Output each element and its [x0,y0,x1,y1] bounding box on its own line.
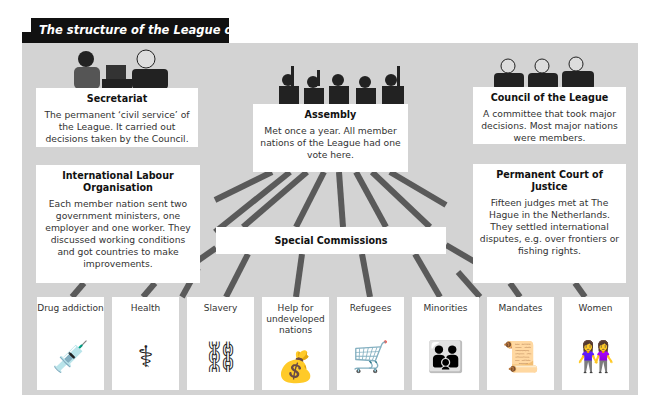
commission-help-undeveloped: Help for undeveloped nations 💰 [262,297,329,390]
commission-label: Drug addiction [37,303,104,314]
refugee-cart-icon: 🛒 [337,339,404,375]
stethoscope-icon: ⚕ [112,339,179,375]
scroll-icon: 📜 [487,339,554,375]
secretariat-box: Secretariat The permanent ‘civil service… [36,88,198,147]
commission-refugees: Refugees 🛒 [337,297,404,390]
secretariat-text: The permanent ‘civil service’ of the Lea… [42,109,192,145]
commission-label: Health [112,303,179,314]
council-men-icon [490,56,600,90]
council-box: Council of the League A committee that t… [473,87,626,144]
assembly-text: Met once a year. All member nations of t… [259,125,402,161]
commission-label: Refugees [337,303,404,314]
secretariat-heading: Secretariat [42,93,192,105]
women-icon: 👭 [562,339,629,375]
commission-drug-addiction: Drug addiction 💉 [37,297,104,390]
court-text: Fifteen judges met at The Hague in the N… [479,197,620,257]
syringe-pills-icon: 💉 [37,339,104,375]
council-heading: Council of the League [479,92,620,104]
commission-label: Mandates [487,303,554,314]
commission-minorities: Minorities 👪 [412,297,479,390]
commission-health: Health ⚕ [112,297,179,390]
assembly-box: Assembly Met once a year. All member nat… [253,104,408,172]
court-box: Permanent Court of Justice Fifteen judge… [473,164,626,283]
delegates-voting-icon [273,64,413,104]
ilo-text: Each member nation sent two government m… [42,198,194,270]
commission-label: Women [562,303,629,314]
commission-label: Minorities [412,303,479,314]
secretary-typing-icon [58,47,178,89]
commission-women: Women 👭 [562,297,629,390]
council-text: A committee that took major decisions. M… [479,108,620,144]
commission-label: Help for undeveloped nations [262,303,329,336]
special-commissions-box: Special Commissions [216,227,446,254]
commission-mandates: Mandates 📜 [487,297,554,390]
ilo-box: International Labour Organisation Each m… [36,165,200,283]
assembly-heading: Assembly [259,109,402,121]
chains-icon: ⛓ [187,339,254,375]
commission-label: Slavery [187,303,254,314]
commission-slavery: Slavery ⛓ [187,297,254,390]
family-icon: 👪 [412,339,479,375]
money-bag-icon: 💰 [262,349,329,385]
ilo-heading: International Labour Organisation [42,170,194,194]
court-heading: Permanent Court of Justice [479,169,620,193]
